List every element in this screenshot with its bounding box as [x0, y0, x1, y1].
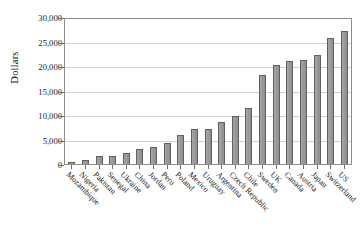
bar-slot — [310, 19, 324, 164]
bar-slot — [283, 19, 297, 164]
y-axis-tick-label: 25,000 — [6, 38, 62, 48]
x-axis-tick-mark — [317, 165, 318, 169]
bar-slot — [229, 19, 243, 164]
x-axis-tick-mark — [303, 165, 304, 169]
x-axis-tick-slot — [79, 165, 93, 169]
x-axis-tick-slot — [106, 165, 120, 169]
bar — [245, 108, 252, 164]
x-axis-tick-slot — [256, 165, 270, 169]
x-axis-tick-mark — [167, 165, 168, 169]
bar-slot — [338, 19, 352, 164]
x-axis-label-slot: Nigeria — [79, 170, 93, 236]
x-axis-label-slot: Jordan — [147, 170, 161, 236]
x-axis-tick-mark — [99, 165, 100, 169]
y-axis-tick-mark — [59, 92, 64, 93]
bar-slot — [215, 19, 229, 164]
y-axis-tick-mark — [59, 67, 64, 68]
x-axis-tick-slot — [147, 165, 161, 169]
bar-slot — [297, 19, 311, 164]
x-axis-label-slot: Pakistan — [92, 170, 106, 236]
x-axis-tick-mark — [330, 165, 331, 169]
y-axis-tick-mark — [59, 18, 64, 19]
x-axis-tick-mark — [208, 165, 209, 169]
x-axis-labels: MozambiqueNigeriaPakistanSenegalUkraineC… — [65, 170, 351, 236]
x-axis-tick-slot — [229, 165, 243, 169]
x-axis-tick-mark — [289, 165, 290, 169]
bar — [150, 147, 157, 164]
x-axis-label-slot: Uruguay — [201, 170, 215, 236]
bar — [96, 156, 103, 164]
x-axis-tick-slot — [324, 165, 338, 169]
bar — [273, 65, 280, 164]
x-axis-ticks — [65, 165, 351, 169]
x-axis-tick-mark — [180, 165, 181, 169]
bar-slot — [269, 19, 283, 164]
bar-slot — [256, 19, 270, 164]
bar — [327, 38, 334, 164]
y-axis-tick-mark — [59, 141, 64, 142]
x-axis-tick-slot — [283, 165, 297, 169]
x-axis-label-slot: Chile — [242, 170, 256, 236]
x-axis-tick-slot — [120, 165, 134, 169]
x-axis-tick-slot — [310, 165, 324, 169]
x-axis-label-slot: US — [338, 170, 352, 236]
bar — [205, 129, 212, 164]
x-axis-label-slot: Canada — [283, 170, 297, 236]
x-axis-tick-mark — [194, 165, 195, 169]
x-axis-tick-mark — [262, 165, 263, 169]
x-axis-tick-slot — [160, 165, 174, 169]
x-axis-tick-mark — [126, 165, 127, 169]
bar — [136, 149, 143, 164]
y-axis-tick-mark — [59, 43, 64, 44]
x-axis-label-slot: China — [133, 170, 147, 236]
y-axis-tick-label: 10,000 — [6, 111, 62, 121]
bar-slot — [324, 19, 338, 164]
bar — [300, 60, 307, 164]
x-axis-label-slot: Argentina — [215, 170, 229, 236]
x-axis-label-slot: Czech Republic — [229, 170, 243, 236]
x-axis-tick-mark — [153, 165, 154, 169]
x-axis-tick-mark — [248, 165, 249, 169]
x-axis-tick-slot — [297, 165, 311, 169]
y-axis-tick-label: 5,000 — [6, 136, 62, 146]
y-axis-tick-label: 20,000 — [6, 62, 62, 72]
y-axis-tick-label: 30,000 — [6, 13, 62, 23]
bar — [109, 156, 116, 164]
x-axis-tick-mark — [235, 165, 236, 169]
x-axis-tick-mark — [112, 165, 113, 169]
bar — [218, 122, 225, 164]
x-axis-label-slot: Peru — [160, 170, 174, 236]
bar-slot — [120, 19, 134, 164]
x-axis-tick-slot — [92, 165, 106, 169]
bar — [191, 129, 198, 164]
x-axis-label-slot: Japan — [310, 170, 324, 236]
x-axis-tick-slot — [133, 165, 147, 169]
bar-slot — [92, 19, 106, 164]
bar-slot — [65, 19, 79, 164]
bar — [177, 135, 184, 164]
x-axis-label-slot: Mexico — [188, 170, 202, 236]
x-axis-tick-slot — [269, 165, 283, 169]
x-axis-tick-mark — [276, 165, 277, 169]
x-axis-tick-slot — [174, 165, 188, 169]
bar — [286, 61, 293, 164]
bar-slot — [106, 19, 120, 164]
x-axis-tick-mark — [344, 165, 345, 169]
bar-chart: Dollars 05,00010,00015,00020,00025,00030… — [0, 0, 364, 236]
x-axis-tick-mark — [85, 165, 86, 169]
x-axis-tick-slot — [242, 165, 256, 169]
y-axis-tick-label: 0 — [6, 160, 62, 170]
bar — [341, 31, 348, 164]
x-axis-tick-slot — [188, 165, 202, 169]
x-axis-tick-slot — [65, 165, 79, 169]
x-axis-label-slot: Ukraine — [120, 170, 134, 236]
bar-slot — [160, 19, 174, 164]
bar — [232, 116, 239, 164]
y-axis-tick-mark — [59, 116, 64, 117]
y-axis-tick-mark — [59, 165, 64, 166]
x-axis-label-slot: Austria — [297, 170, 311, 236]
bar-slot — [201, 19, 215, 164]
x-axis-tick-label: US — [337, 170, 351, 184]
bar-slot — [242, 19, 256, 164]
x-axis-tick-slot — [201, 165, 215, 169]
